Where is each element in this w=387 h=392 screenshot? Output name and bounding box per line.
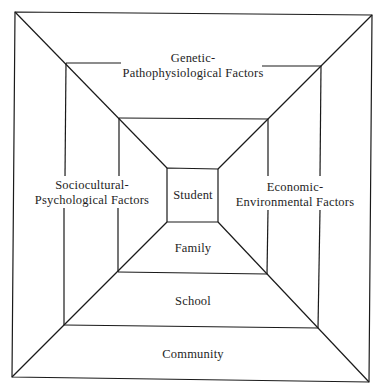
level-label-community: Community <box>162 347 224 362</box>
diagonal-bottom-left <box>12 222 167 377</box>
level-label-student: Student <box>173 188 213 203</box>
level-label-school: School <box>175 294 211 309</box>
diagonal-top-right <box>218 15 372 169</box>
factor-label-left: Sociocultural- Psychological Factors <box>35 178 149 208</box>
factor-right-line1: Economic- <box>236 180 354 195</box>
factor-left-line1: Sociocultural- <box>35 178 149 193</box>
factor-top-line2: Pathophysiological Factors <box>123 66 264 81</box>
diagonal-bottom-right <box>218 222 369 382</box>
diagonal-top-left <box>15 12 167 168</box>
factor-right-line2: Environmental Factors <box>236 195 354 210</box>
factor-label-top: Genetic- Pathophysiological Factors <box>123 51 264 81</box>
factor-top-line1: Genetic- <box>123 51 264 66</box>
level-label-family: Family <box>175 241 212 256</box>
factor-label-right: Economic- Environmental Factors <box>236 180 354 210</box>
factor-left-line2: Psychological Factors <box>35 193 149 208</box>
